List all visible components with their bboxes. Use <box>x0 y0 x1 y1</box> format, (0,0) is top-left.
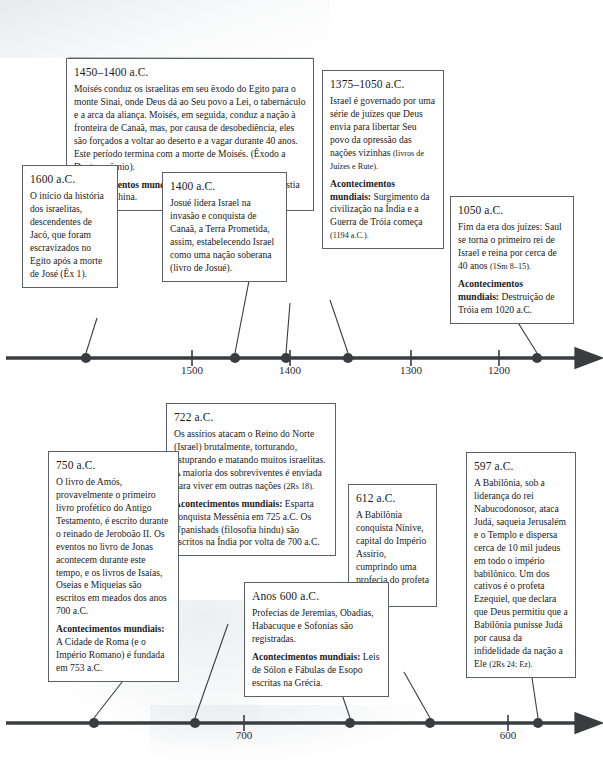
event-box-1050[interactable]: 1050 a.C. Fim da era dos juízes: Saul se… <box>450 196 574 324</box>
event-body-reference: (1Sm 8–15). <box>490 262 531 271</box>
event-body: Josué lidera Israel na invasão e conquis… <box>170 197 279 274</box>
event-world-events: Acontecimentos mundiais: A Cidade de Rom… <box>56 623 171 675</box>
event-box-anos-600[interactable]: Anos 600 a.C. Profecias de Jeremias, Oba… <box>244 582 389 697</box>
event-body-text: A Babilônia, sob a liderança do rei Nabu… <box>474 477 568 668</box>
event-box-1400[interactable]: 1400 a.C. Josué lidera Israel na invasão… <box>162 172 287 282</box>
event-body: Israel é governado por uma série de juíz… <box>330 95 436 172</box>
event-header: 612 a.C. <box>356 490 429 506</box>
scan-fan-artifact-2 <box>150 705 450 768</box>
event-header: 722 a.C. <box>174 409 328 425</box>
event-header: 1050 a.C. <box>458 202 566 218</box>
world-events-label: Acontecimentos mundiais: <box>174 498 282 509</box>
event-box-750[interactable]: 750 a.C. O livro de Amós, provavelmente … <box>48 451 179 682</box>
event-body: O livro de Amós, provavelmente o primeir… <box>56 476 171 618</box>
lower-timeline-axis <box>6 715 578 731</box>
event-body: Profecias de Jeremias, Obadias, Habacuqu… <box>252 607 381 646</box>
world-events-reference: (1194 a.C.). <box>330 231 369 240</box>
event-body: A Babilônia, sob a liderança do rei Nabu… <box>474 477 568 670</box>
event-header: Anos 600 a.C. <box>252 588 381 604</box>
event-box-722[interactable]: 722 a.C. Os assírios atacam o Reino do N… <box>166 403 336 556</box>
event-header: 1400 a.C. <box>170 178 279 194</box>
event-world-events: Acontecimentos mundiais: Esparta conquis… <box>174 498 328 550</box>
event-world-events: Acontecimentos mundiais: Surgimento da c… <box>330 178 436 242</box>
event-world-events: Acontecimentos mundiais: Leis de Sólon e… <box>252 651 381 690</box>
event-box-597[interactable]: 597 a.C. A Babilônia, sob a liderança do… <box>466 452 576 678</box>
axis-label-1400: 1400 <box>267 365 313 376</box>
event-box-1600[interactable]: 1600 a.C. O início da história dos israe… <box>22 165 118 288</box>
world-events-label: Acontecimentos mundiais: <box>56 623 164 634</box>
axis-label-1200: 1200 <box>476 365 522 376</box>
event-box-1375-1050[interactable]: 1375–1050 a.C. Israel é governado por um… <box>322 70 444 249</box>
axis-label-600: 600 <box>485 730 531 741</box>
event-body: O início da história dos israelitas, des… <box>30 190 110 280</box>
world-events-label: Acontecimentos mundiais: <box>252 651 360 662</box>
event-header: 1600 a.C. <box>30 171 110 187</box>
event-world-events: Acontecimentos mundiais: Destruição de T… <box>458 278 566 317</box>
event-body-reference: (2Rs 24; Ez). <box>489 660 532 669</box>
event-body-reference: (2Rs 18). <box>283 482 313 491</box>
event-body: Moisés conduz os israelitas em seu êxodo… <box>74 83 306 173</box>
event-body: Fim da era dos juízes: Saul se torna o p… <box>458 221 566 273</box>
event-header: 1375–1050 a.C. <box>330 76 436 92</box>
axis-label-1300: 1300 <box>388 365 434 376</box>
event-header: 1450–1400 a.C. <box>74 64 306 80</box>
axis-label-1500: 1500 <box>169 365 215 376</box>
axis-label-700: 700 <box>221 730 267 741</box>
scan-shadow <box>0 0 330 58</box>
event-header: 750 a.C. <box>56 457 171 473</box>
event-header: 597 a.C. <box>474 458 568 474</box>
event-body: Os assírios atacam o Reino do Norte (Isr… <box>174 428 328 492</box>
world-events-body: A Cidade de Roma (e o Império Romano) é … <box>56 636 164 673</box>
